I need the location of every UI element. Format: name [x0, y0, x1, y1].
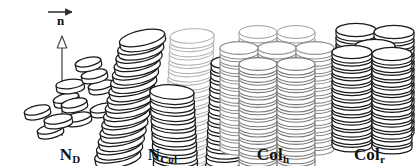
panel-label-colh-sub: h — [283, 153, 289, 165]
panel-label-ncol-sub: Col — [160, 153, 177, 165]
discotic-mesophase-figure: n ND NCol Colh Colr — [0, 0, 419, 166]
panel-label-ncol-main: N — [148, 145, 160, 164]
panel-label-colh: Colh — [218, 146, 328, 163]
panel-label-ncol: NCol — [100, 146, 225, 163]
panel-colr: Colr — [320, 0, 419, 166]
panel-colh: Colh — [218, 0, 328, 166]
panel-label-colr-sub: r — [380, 153, 385, 165]
panel-label-colr: Colr — [320, 146, 419, 163]
panel-label-colr-main: Col — [354, 145, 380, 164]
panel-label-nd-sub: D — [72, 153, 80, 165]
director-symbol-n: n — [57, 14, 64, 27]
panel-label-colh-main: Col — [257, 145, 283, 164]
panel-label-nd-main: N — [60, 145, 72, 164]
panel-ncol: NCol — [100, 0, 225, 166]
